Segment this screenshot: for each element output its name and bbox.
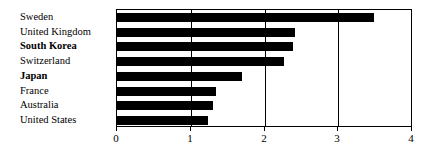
- bar: [117, 13, 374, 22]
- category-label: Sweden: [20, 11, 112, 22]
- plot-area: [116, 9, 412, 127]
- x-tick-label: 3: [325, 132, 349, 145]
- x-tick-mark: [411, 127, 412, 131]
- category-label: France: [20, 85, 112, 96]
- bar: [117, 72, 242, 81]
- bar: [117, 42, 293, 51]
- x-tick-label: 1: [178, 132, 202, 145]
- x-tick-label: 4: [399, 132, 423, 145]
- category-label: United Kingdom: [20, 26, 112, 37]
- x-tick-mark: [264, 127, 265, 131]
- bar: [117, 87, 216, 96]
- category-label: Australia: [20, 99, 112, 110]
- x-tick-label: 0: [104, 132, 128, 145]
- x-axis: 01234: [116, 127, 412, 154]
- bar: [117, 57, 284, 66]
- x-tick-mark: [337, 127, 338, 131]
- bar: [117, 101, 213, 110]
- category-label: Japan: [20, 70, 112, 81]
- gridline-3: [338, 10, 339, 126]
- category-label: United States: [20, 114, 112, 125]
- category-label: South Korea: [20, 40, 112, 51]
- x-tick-mark: [190, 127, 191, 131]
- bar: [117, 116, 208, 125]
- bar-chart: SwedenUnited KingdomSouth KoreaSwitzerla…: [0, 0, 436, 154]
- category-label-column: SwedenUnited KingdomSouth KoreaSwitzerla…: [20, 9, 112, 127]
- bar: [117, 28, 295, 37]
- x-tick-mark: [116, 127, 117, 131]
- category-label: Switzerland: [20, 55, 112, 66]
- x-tick-label: 2: [252, 132, 276, 145]
